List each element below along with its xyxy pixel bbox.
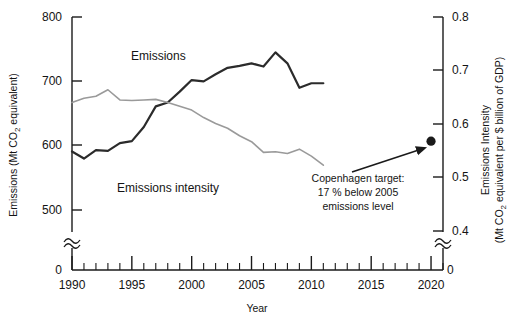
left-ticklabel-500: 500 [42, 203, 62, 217]
right-axis-title-line1: Emissions Intensity [479, 104, 491, 195]
annotation-line-3: emissions level [322, 200, 393, 212]
x-axis: 1990199520002005201020152020 [59, 256, 445, 292]
x-ticklabel-1990: 1990 [59, 278, 86, 292]
left-axis-break-icon [64, 239, 80, 249]
right-ticklabel-0-4: 0.4 [452, 224, 469, 238]
right-axis-break-icon [435, 239, 451, 249]
right-axis-title-text2b: equivalent per $ billion of GDP) [493, 57, 505, 205]
right-ticklabel-0-5: 0.5 [452, 170, 469, 184]
left-axis-title: Emissions (Mt CO2 equivalent) [7, 73, 22, 216]
annotation-line-2: 17 % below 2005 [318, 186, 399, 198]
annotation-arrow [352, 148, 424, 172]
left-ticklabel-800: 800 [42, 10, 62, 24]
emissions-chart-svg: 800 700 600 500 0 Emissions (Mt CO2 equi… [0, 0, 523, 325]
right-ticklabel-0-7: 0.7 [452, 63, 469, 77]
x-ticklabel-2000: 2000 [178, 278, 205, 292]
left-ticklabel-600: 600 [42, 138, 62, 152]
x-ticklabel-2005: 2005 [238, 278, 265, 292]
copenhagen-target-marker [426, 137, 435, 146]
svg-text:Emissions (Mt CO2 equivalent): Emissions (Mt CO2 equivalent) [7, 73, 22, 216]
left-ticklabel-700: 700 [42, 74, 62, 88]
x-ticklabel-2010: 2010 [298, 278, 325, 292]
right-axis-title-text1: Emissions Intensity [479, 104, 491, 195]
emissions-series-label: Emissions [131, 49, 186, 63]
svg-text:(Mt CO2 equivalent per $ bill: (Mt CO2 equivalent per $ billion of GDP) [493, 57, 508, 244]
x-ticklabel-1995: 1995 [118, 278, 145, 292]
emissions-intensity-line [72, 90, 323, 165]
right-ticklabel-0-6: 0.6 [452, 117, 469, 131]
right-axis: 0.8 0.7 0.6 0.5 0.4 0 [433, 10, 469, 277]
copenhagen-target-annotation: Copenhagen target: 17 % below 2005 emiss… [312, 137, 436, 212]
left-axis: 800 700 600 500 0 [42, 10, 82, 277]
left-ticklabel-0: 0 [55, 263, 62, 277]
right-axis-title-line2: (Mt CO2 equivalent per $ billion of GDP) [493, 57, 508, 244]
x-ticklabel-group: 1990199520002005201020152020 [59, 278, 445, 292]
chart-container: 800 700 600 500 0 Emissions (Mt CO2 equi… [0, 0, 523, 325]
annotation-line-1: Copenhagen target: [312, 172, 405, 184]
x-tick-group [72, 256, 443, 270]
right-axis-title-text2a: (Mt CO [493, 209, 505, 243]
left-axis-title-part1: Emissions (Mt CO [7, 132, 19, 217]
emissions-intensity-series-label: Emissions intensity [117, 181, 219, 195]
series-group [72, 52, 323, 165]
x-axis-title: Year [246, 302, 268, 314]
x-ticklabel-2020: 2020 [418, 278, 445, 292]
emissions-line [72, 52, 323, 158]
right-ticklabel-0-8: 0.8 [452, 10, 469, 24]
x-ticklabel-2015: 2015 [358, 278, 385, 292]
right-ticklabel-0: 0 [447, 263, 454, 277]
left-axis-title-part2: equivalent) [7, 73, 19, 127]
